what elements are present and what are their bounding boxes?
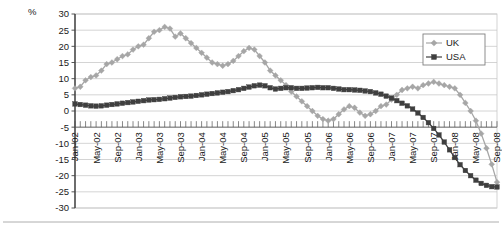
x-tick-label: Jan-07: [386, 132, 397, 161]
x-tick-label: Sep-03: [175, 132, 186, 163]
chart-container: 302520151050-5-10-15-20-25-30 % Jan-02Ma…: [0, 0, 502, 226]
data-point: [363, 89, 368, 94]
data-point: [236, 87, 241, 92]
data-point: [268, 85, 273, 90]
data-point: [205, 92, 210, 97]
data-point: [226, 89, 231, 94]
data-point: [468, 173, 473, 178]
data-point: [379, 92, 384, 97]
y-tick-label: 0: [64, 105, 69, 116]
data-point: [162, 96, 167, 101]
data-point: [252, 83, 257, 88]
x-tick-label: May-08: [470, 132, 481, 164]
y-tick-label: -5: [61, 122, 69, 133]
data-point: [352, 88, 357, 93]
data-point: [89, 104, 94, 109]
data-point: [183, 94, 188, 99]
data-point: [442, 140, 447, 145]
line-chart: 302520151050-5-10-15-20-25-30 % Jan-02Ma…: [0, 0, 502, 226]
data-point: [463, 168, 468, 173]
x-tick-label: Jan-02: [69, 132, 80, 161]
chart-legend[interactable]: UKUSA: [423, 34, 485, 65]
data-point: [173, 95, 178, 100]
data-point: [300, 86, 305, 91]
y-tick-label: 5: [64, 89, 69, 100]
data-point: [215, 91, 220, 96]
data-point: [194, 93, 199, 98]
y-tick-label: 30: [58, 8, 69, 19]
data-point: [83, 103, 88, 108]
data-point: [400, 101, 405, 106]
x-tick-label: Sep-04: [238, 132, 249, 163]
y-tick-label: 15: [58, 57, 69, 68]
data-point: [389, 96, 394, 101]
x-tick-label: May-05: [280, 132, 291, 164]
legend-label: USA: [446, 51, 466, 62]
data-point: [437, 133, 442, 138]
data-point: [289, 85, 294, 90]
data-point: [131, 100, 136, 105]
data-point: [421, 115, 426, 120]
data-point: [458, 162, 463, 167]
data-point: [220, 90, 225, 95]
data-point: [147, 98, 152, 103]
data-point: [331, 86, 336, 91]
data-point: [431, 126, 436, 131]
data-point: [294, 86, 299, 91]
data-point: [384, 94, 389, 99]
y-axis-unit-label: %: [28, 6, 37, 17]
data-point: [474, 178, 479, 183]
data-point: [394, 98, 399, 103]
data-point: [157, 97, 162, 102]
y-tick-label: 10: [58, 73, 69, 84]
data-point: [305, 86, 310, 91]
y-tick-label: -30: [55, 202, 69, 213]
x-tick-label: Sep-08: [491, 132, 502, 163]
legend-label: UK: [446, 37, 460, 48]
x-tick-label: May-06: [344, 132, 355, 164]
y-tick-label: 20: [58, 41, 69, 52]
data-point: [479, 181, 484, 186]
x-tick-label: Sep-05: [302, 132, 313, 163]
data-point: [263, 83, 268, 88]
data-point: [210, 91, 215, 96]
data-point: [347, 87, 352, 92]
data-point: [342, 87, 347, 92]
x-tick-label: Jan-06: [323, 132, 334, 161]
data-point: [78, 102, 83, 107]
y-tick-label: -20: [55, 170, 69, 181]
data-point: [168, 96, 173, 101]
data-point: [152, 97, 157, 102]
data-point: [310, 85, 315, 90]
x-tick-label: May-07: [407, 132, 418, 164]
data-point: [231, 88, 236, 93]
data-point: [273, 87, 278, 92]
data-point: [284, 85, 289, 90]
data-point: [110, 102, 115, 107]
data-point: [278, 86, 283, 91]
x-tick-label: Jan-05: [259, 132, 270, 161]
y-tick-label: -10: [55, 138, 69, 149]
x-tick-label: Sep-06: [365, 132, 376, 163]
data-point: [426, 120, 431, 125]
data-point: [495, 185, 500, 190]
data-point: [189, 94, 194, 99]
y-tick-label: 25: [58, 25, 69, 36]
y-tick-label: -15: [55, 154, 69, 165]
legend-marker-square: [432, 55, 437, 60]
data-point: [136, 99, 141, 104]
data-point: [321, 85, 326, 90]
data-point: [489, 184, 494, 189]
data-point: [484, 183, 489, 188]
x-tick-label: Jan-03: [133, 132, 144, 161]
x-tick-label: May-03: [154, 132, 165, 164]
data-point: [120, 101, 125, 106]
x-tick-label: May-04: [217, 132, 228, 164]
data-point: [326, 85, 331, 90]
data-point: [453, 155, 458, 160]
data-point: [373, 91, 378, 96]
x-tick-label: May-02: [91, 132, 102, 164]
y-tick-label: -25: [55, 186, 69, 197]
data-point: [405, 104, 410, 109]
data-point: [358, 88, 363, 93]
